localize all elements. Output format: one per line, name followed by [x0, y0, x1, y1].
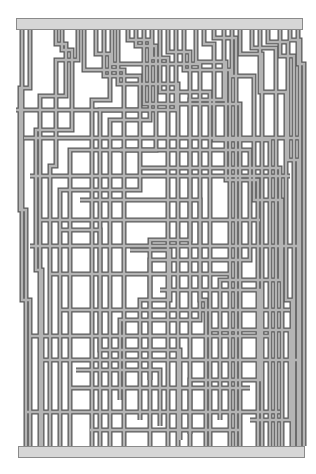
pipe-maze-diagram: [0, 0, 316, 474]
top-bus-bar: [16, 18, 303, 30]
pipe-network: [0, 0, 316, 474]
bottom-bus-bar: [18, 446, 305, 458]
